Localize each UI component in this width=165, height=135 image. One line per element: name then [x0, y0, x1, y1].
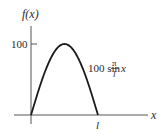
sine-diagram: f(x) 100 x l 100 sin π l x [0, 0, 165, 135]
annotation-frac-num: π [112, 58, 117, 68]
annotation-suffix: x [120, 62, 126, 74]
x-axis-label: x [150, 108, 157, 122]
curve-annotation: 100 sin π l x [88, 58, 126, 79]
y-axis-label: f(x) [22, 7, 39, 21]
x-tick-label-l: l [96, 119, 99, 131]
y-tick-label-100: 100 [11, 38, 28, 50]
sine-curve [31, 44, 98, 115]
